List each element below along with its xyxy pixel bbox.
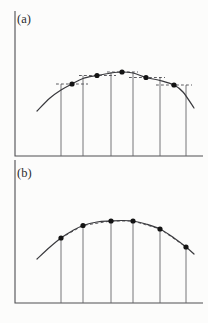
panel-b-dot-2 bbox=[80, 223, 85, 228]
panel-b-dot-5 bbox=[157, 226, 162, 231]
panel-a-label: (a) bbox=[17, 12, 31, 26]
figure-canvas: (a) (b) bbox=[0, 0, 208, 323]
panel-a-dot-3 bbox=[119, 69, 124, 74]
panel-a-dot-5 bbox=[171, 82, 176, 87]
figure-page: (a) (b) bbox=[0, 0, 208, 323]
panel-b-label: (b) bbox=[17, 166, 32, 180]
panel-b-axes bbox=[15, 160, 203, 303]
panel-b-dot-6 bbox=[183, 244, 188, 249]
panel-a bbox=[15, 11, 203, 156]
panel-a-dot-2 bbox=[94, 73, 99, 78]
panel-b-dot-4 bbox=[130, 218, 135, 223]
panel-b-dot-3 bbox=[108, 218, 113, 223]
panel-b bbox=[15, 160, 203, 303]
panel-a-dot-4 bbox=[143, 75, 148, 80]
panel-a-dot-1 bbox=[69, 81, 74, 86]
panel-b-dot-1 bbox=[58, 235, 63, 240]
